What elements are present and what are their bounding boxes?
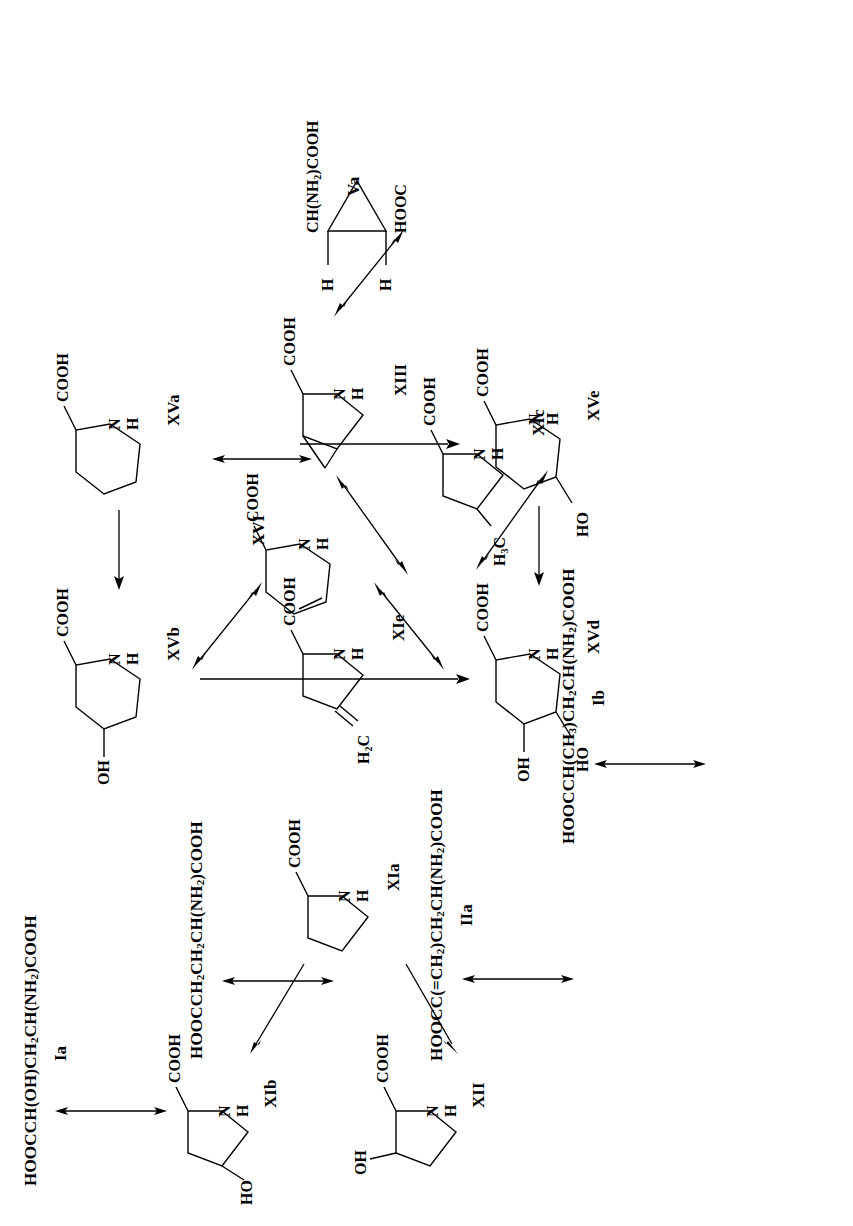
XVb-label-H: H xyxy=(124,652,141,665)
arrow-XVI-to-XVe xyxy=(370,578,450,674)
tag-XVe: XVe xyxy=(585,390,602,421)
XII-label-H: H xyxy=(442,1104,459,1117)
XVa-label-H: H xyxy=(124,417,141,430)
XIe-label-H2C: H2C xyxy=(355,735,374,764)
tag-XVd: XVd xyxy=(585,620,602,654)
arrow-XVa-to-XIII xyxy=(212,452,312,466)
XVd-label-H: H xyxy=(544,647,561,660)
XVd-label-COOH: COOH xyxy=(474,583,491,632)
XII-label-COOH: COOH xyxy=(374,1034,391,1083)
arrow-XIe-to-IIa xyxy=(462,972,574,986)
XVe-label-N: N xyxy=(526,413,543,425)
XVd-label-OH: OH xyxy=(515,757,532,782)
XVa-label-N: N xyxy=(106,418,123,430)
XIc-label-COOH: COOH xyxy=(421,377,438,426)
structure-XII: COOH N H OH xyxy=(378,1063,488,1183)
arrow-XVb-to-XVd xyxy=(200,672,470,686)
XII-label-OH: OH xyxy=(352,1150,369,1175)
tag-IIa: IIa xyxy=(458,904,475,926)
XVd-label-HO: HO xyxy=(574,747,591,772)
formula-glu-text: HOOCCH2CH2CH(NH2)COOH xyxy=(187,821,206,1059)
XVe-label-COOH: COOH xyxy=(474,348,491,397)
arrow-XVe-to-XVd xyxy=(532,500,546,586)
formula-Ia: HOOCCH(OH)CH2CH(NH2)COOH xyxy=(22,915,40,1186)
tag-XVI: XVI xyxy=(250,515,267,546)
arrow-XIb-to-Ia xyxy=(55,1104,167,1118)
XIb-label-N: N xyxy=(216,1105,233,1117)
XIII-label-H: H xyxy=(349,387,366,400)
formula-IIa: HOOCC(=CH2)CH2CH(NH2)COOH xyxy=(428,789,446,1061)
tag-Va: Va xyxy=(345,177,362,196)
XIb-label-COOH: COOH xyxy=(166,1034,183,1083)
XVb-label-N: N xyxy=(106,653,123,665)
XIa-label-N: N xyxy=(336,890,353,902)
formula-Ia-text: HOOCCH(OH)CH2CH(NH2)COOH xyxy=(21,915,40,1186)
tag-XII: XII xyxy=(470,1082,487,1108)
arrow-XVb-to-XVI xyxy=(188,578,268,674)
XIa-label-H: H xyxy=(354,889,371,902)
XVa-label-COOH: COOH xyxy=(54,353,71,402)
tag-XIb: XIb xyxy=(262,1080,279,1108)
XIe-label-N: N xyxy=(331,648,348,660)
structure-XVa: COOH N H xyxy=(60,376,180,506)
tag-XVb: XVb xyxy=(165,627,182,661)
tag-Ia: Ia xyxy=(52,1046,69,1061)
XII-label-N: N xyxy=(424,1105,441,1117)
structure-XVb: COOH N H OH xyxy=(60,611,180,741)
XVI-label-H: H xyxy=(314,537,331,550)
tag-XIII: XIII xyxy=(392,364,409,396)
arrow-XIa-to-XIb xyxy=(248,958,310,1054)
formula-IIa-text: HOOCC(=CH2)CH2CH(NH2)COOH xyxy=(427,789,446,1061)
XIa-label-COOH: COOH xyxy=(286,819,303,868)
rotated-figure-container: HOOCCH(OH)CH2CH(NH2)COOH Ia HOOCCH2CH2CH… xyxy=(0,0,853,1226)
tag-XVa: XVa xyxy=(165,395,182,427)
XVb-label-OH: OH xyxy=(95,760,112,785)
arrow-XVa-to-XVb xyxy=(112,504,126,590)
XVI-label-N: N xyxy=(296,538,313,550)
scheme-canvas: HOOCCH(OH)CH2CH(NH2)COOH Ia HOOCCH2CH2CH… xyxy=(0,0,853,1226)
formula-glutamic-acid: HOOCCH2CH2CH(NH2)COOH xyxy=(188,821,206,1059)
Va-label-CH-NH2-COOH: CH(NH2)COOH xyxy=(304,120,323,233)
XVb-label-COOH: COOH xyxy=(54,588,71,637)
XIII-label-N: N xyxy=(331,388,348,400)
XIII-label-COOH: COOH xyxy=(281,317,298,366)
arrow-XVa-to-XVe xyxy=(300,437,460,451)
arrow-XIII-to-Va xyxy=(330,225,410,321)
tag-XIa: XIa xyxy=(385,864,402,891)
XVe-label-H: H xyxy=(544,412,561,425)
XIe-label-H: H xyxy=(349,647,366,660)
arrow-XIc-to-Ib xyxy=(594,757,706,771)
XVe-label-HO: HO xyxy=(574,512,591,537)
XVd-label-N: N xyxy=(526,648,543,660)
structure-XVI: COOH N H xyxy=(250,496,370,626)
XIb-label-HO: HO xyxy=(238,1180,255,1205)
XIb-label-H: H xyxy=(234,1104,251,1117)
